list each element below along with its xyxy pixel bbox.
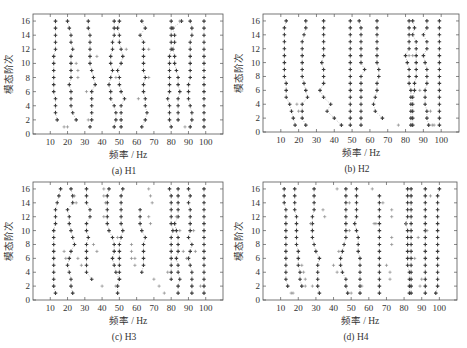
data-marker — [85, 229, 89, 233]
data-marker — [349, 33, 353, 37]
data-marker — [322, 96, 326, 100]
data-marker — [112, 104, 116, 108]
data-marker — [316, 284, 320, 288]
outlier-marker — [66, 125, 69, 128]
data-marker — [406, 264, 410, 268]
data-marker — [106, 208, 110, 212]
data-marker — [85, 257, 89, 261]
data-marker — [344, 194, 348, 198]
y-axis-label: 模态阶次 — [233, 221, 244, 261]
data-marker — [69, 55, 73, 59]
data-marker — [284, 19, 288, 23]
data-marker — [377, 75, 381, 79]
data-marker — [284, 82, 288, 86]
x-tick-label: 50 — [115, 137, 125, 147]
data-marker — [202, 19, 206, 23]
data-marker — [144, 104, 148, 108]
data-marker — [68, 257, 72, 261]
outlier-marker — [302, 271, 305, 274]
y-tick-label: 14 — [251, 198, 261, 208]
data-marker — [202, 69, 206, 73]
y-tick-label: 6 — [256, 253, 261, 263]
data-marker — [363, 68, 367, 72]
data-marker — [425, 82, 429, 86]
data-marker — [106, 194, 110, 198]
y-axis-label: 模态阶次 — [233, 53, 244, 93]
data-marker — [175, 69, 179, 73]
data-marker — [175, 257, 179, 261]
data-marker — [283, 61, 287, 65]
outlier-marker — [178, 229, 181, 232]
data-marker — [202, 277, 206, 281]
outlier-marker — [420, 278, 423, 281]
data-marker — [69, 69, 73, 73]
data-marker — [118, 250, 122, 254]
data-marker — [436, 250, 440, 254]
outlier-marker — [388, 278, 391, 281]
data-marker — [302, 33, 306, 37]
series-mode-5 — [357, 19, 366, 127]
data-marker — [425, 40, 429, 44]
y-tick-label: 2 — [26, 281, 31, 291]
data-marker — [52, 257, 56, 261]
data-marker — [202, 284, 206, 288]
outlier-marker — [178, 20, 181, 23]
data-marker — [359, 116, 363, 120]
data-marker — [114, 270, 118, 274]
data-marker — [304, 26, 308, 30]
data-marker — [112, 26, 116, 30]
data-marker — [85, 250, 89, 254]
data-marker — [69, 90, 73, 94]
data-marker — [202, 55, 206, 59]
data-marker — [356, 243, 360, 247]
data-marker — [66, 19, 70, 23]
data-marker — [413, 89, 417, 93]
data-marker — [407, 47, 411, 51]
data-marker — [283, 40, 287, 44]
mode-trace-line — [140, 21, 147, 127]
series-mode-3 — [85, 187, 94, 281]
data-marker — [295, 215, 299, 219]
data-marker — [413, 82, 417, 86]
x-tick-label: 80 — [167, 303, 177, 313]
data-marker — [436, 257, 440, 261]
series-mode-3 — [87, 19, 98, 128]
data-marker — [349, 89, 353, 93]
data-marker — [355, 229, 359, 233]
data-marker — [202, 264, 206, 268]
data-marker — [112, 125, 116, 129]
data-marker — [140, 19, 144, 23]
y-tick-label: 12 — [21, 44, 30, 54]
data-marker — [378, 277, 382, 281]
data-marker — [409, 243, 413, 247]
data-marker — [202, 291, 206, 295]
outlier-marker — [295, 103, 298, 106]
outlier-marker — [158, 285, 161, 288]
data-marker — [436, 222, 440, 226]
outlier-marker — [75, 201, 78, 204]
data-marker — [407, 82, 411, 86]
data-marker — [312, 208, 316, 212]
data-marker — [142, 83, 146, 87]
series-mode-10 — [202, 187, 206, 295]
data-marker — [356, 250, 360, 254]
data-marker — [358, 291, 362, 295]
x-tick-label: 30 — [80, 137, 90, 147]
data-marker — [344, 236, 348, 240]
data-marker — [407, 40, 411, 44]
data-marker — [176, 243, 180, 247]
data-marker — [169, 194, 173, 198]
data-marker — [284, 89, 288, 93]
data-marker — [119, 104, 123, 108]
data-marker — [438, 187, 442, 191]
data-marker — [173, 33, 177, 37]
data-marker — [85, 264, 89, 268]
data-marker — [357, 19, 361, 23]
data-marker — [406, 208, 410, 212]
data-marker — [109, 62, 113, 66]
data-marker — [176, 291, 180, 295]
data-marker — [375, 33, 379, 37]
data-marker — [176, 194, 180, 198]
data-marker — [145, 111, 149, 115]
data-marker — [202, 83, 206, 87]
